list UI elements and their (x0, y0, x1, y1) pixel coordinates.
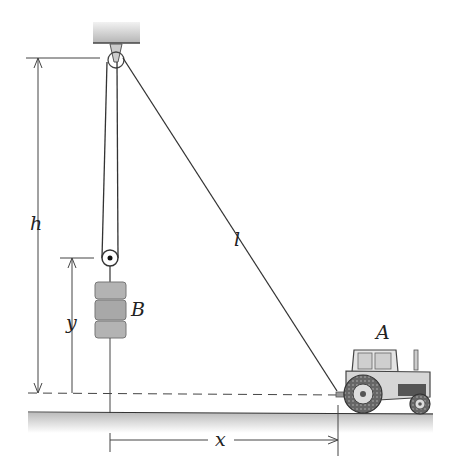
ground (28, 412, 433, 433)
label-b: B (131, 300, 145, 319)
ceiling-support (93, 22, 140, 62)
tractor-a (336, 350, 430, 414)
diagram-canvas (0, 0, 457, 465)
label-x: x (215, 430, 226, 449)
pulley-ropes (102, 62, 118, 258)
label-h: h (30, 214, 42, 233)
label-l: l (234, 230, 240, 249)
pulley-tractor-diagram: h y B l A x (0, 0, 457, 465)
dashed-datum-line (28, 393, 340, 395)
rope-l (123, 58, 337, 391)
label-y: y (66, 313, 77, 332)
lower-pulley (102, 250, 118, 282)
label-a: A (376, 323, 390, 342)
block-b (95, 282, 126, 338)
